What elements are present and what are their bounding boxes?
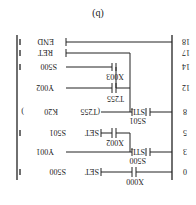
step-0: 0	[183, 167, 187, 176]
ret-instruction: RET	[38, 48, 53, 57]
rung-0: X000 SET S500	[50, 167, 172, 186]
rung-17: RET	[38, 48, 130, 57]
coil-s500: S500	[50, 167, 66, 176]
timer-k20: K20	[44, 107, 58, 116]
end-instruction: END	[37, 37, 54, 46]
timer-t255: (T255	[80, 107, 100, 116]
coil-s501: S501	[50, 128, 66, 137]
contact-t255: T255	[107, 94, 124, 103]
coil-y001: Y001	[36, 147, 54, 156]
svg-text:STL: STL	[131, 147, 145, 156]
ladder-diagram: 0 3 5 8 12 14 17 18 X000 SET S500 STL S5…	[0, 0, 196, 205]
step-14: 14	[182, 62, 190, 71]
rung-5: X002 SET S501	[50, 128, 130, 152]
rung-3: STL S500 Y001	[36, 147, 172, 165]
step-12: 12	[182, 83, 190, 92]
svg-text:SET: SET	[85, 128, 99, 137]
step-3: 3	[183, 147, 187, 156]
contact-x002: X002	[106, 138, 124, 147]
svg-text:STL: STL	[131, 107, 145, 116]
contact-x003: X003	[106, 72, 124, 81]
contact-x000: X000	[126, 177, 144, 186]
rung-8: STL S501 (T255 K20 )	[21, 107, 172, 125]
ladder-svg: 0 3 5 8 12 14 17 18 X000 SET S500 STL S5…	[0, 0, 196, 205]
svg-text:): )	[21, 107, 24, 116]
step-17: 17	[182, 48, 190, 57]
step-8: 8	[183, 107, 187, 116]
coil-y002: Y002	[36, 83, 54, 92]
stl-s500: S500	[130, 156, 146, 165]
coil-s500b: S500	[41, 62, 57, 71]
stl-s501: S501	[130, 116, 146, 125]
figure-caption: (b)	[92, 8, 104, 20]
svg-text:SET: SET	[85, 167, 99, 176]
step-5: 5	[183, 128, 187, 137]
step-18: 18	[182, 37, 190, 46]
rung-18: END	[37, 37, 172, 46]
